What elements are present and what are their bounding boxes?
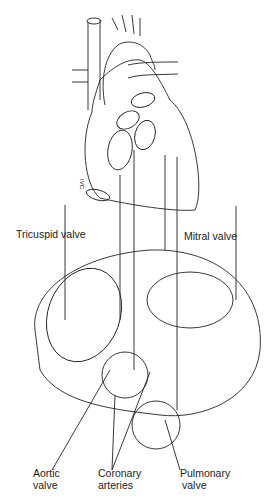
pulmonary-valve-shape: [132, 401, 180, 449]
vena-cava: [88, 20, 100, 110]
aortic-valve-shape: [102, 352, 148, 398]
aorta: [103, 42, 155, 105]
tricuspid-valve-shape: [34, 258, 134, 373]
label-tricuspid-valve: Tricuspid valve: [16, 228, 86, 240]
heart-outline: [85, 60, 199, 211]
label-pulmonary-valve-2: valve: [182, 479, 207, 491]
label-aortic-valve-2: valve: [33, 479, 58, 491]
label-coronary-arteries-1: Coronary: [98, 467, 141, 479]
label-aortic-valve-1: Aortic: [33, 467, 60, 479]
valve-plane: [35, 250, 261, 416]
mitral-valve-shape: [147, 272, 233, 328]
label-coronary-arteries-2: arteries: [98, 479, 133, 491]
label-ivc: IVC: [76, 179, 88, 189]
label-pulmonary-valve-1: Pulmonary: [180, 467, 230, 479]
label-mitral-valve: Mitral valve: [184, 230, 237, 242]
heart-diagram: [0, 0, 278, 500]
